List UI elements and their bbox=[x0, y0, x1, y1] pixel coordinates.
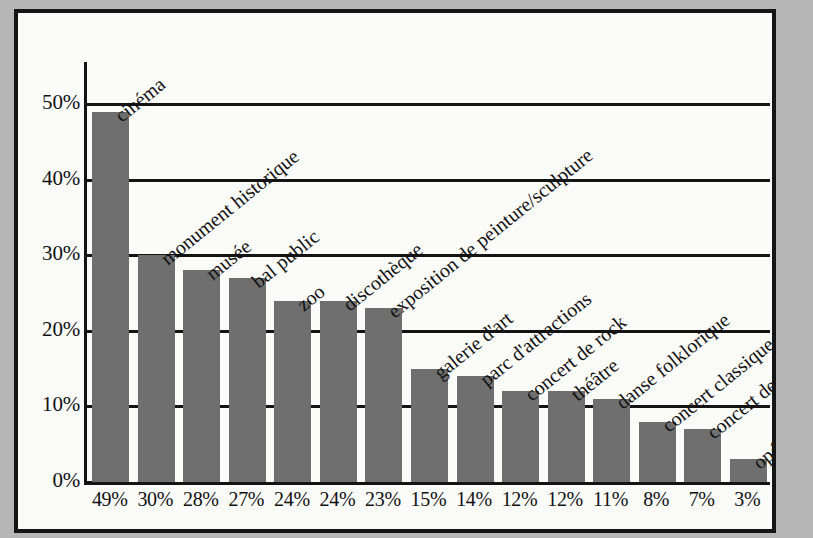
figure-plate: 0%10%20%30%40%50% cinémamonument histori… bbox=[0, 0, 813, 538]
bar-value-label: 30% bbox=[133, 488, 179, 511]
bar-value-label: 27% bbox=[224, 488, 270, 511]
bar-value-label: 11% bbox=[588, 488, 634, 511]
bar-value-label: 49% bbox=[87, 488, 133, 511]
category-label: exposition de peinture/sculpture bbox=[384, 144, 598, 323]
bar-value-label: 3% bbox=[724, 488, 770, 511]
category-labels: cinémamonument historiquemuséebal public… bbox=[18, 13, 772, 529]
bar-value-label: 28% bbox=[178, 488, 224, 511]
category-label: musée bbox=[202, 235, 256, 285]
bar-value-label: 15% bbox=[406, 488, 452, 511]
bar-value-label: 8% bbox=[633, 488, 679, 511]
bar-value-label: 23% bbox=[360, 488, 406, 511]
bar-value-label: 24% bbox=[315, 488, 361, 511]
category-label: opéra bbox=[748, 428, 772, 474]
category-label: cinéma bbox=[111, 72, 170, 126]
bar-value-label: 12% bbox=[542, 488, 588, 511]
bar-chart: 0%10%20%30%40%50% cinémamonument histori… bbox=[18, 13, 772, 529]
bar-value-label: 24% bbox=[269, 488, 315, 511]
bar-value-label: 7% bbox=[679, 488, 725, 511]
figure-frame: 0%10%20%30%40%50% cinémamonument histori… bbox=[14, 9, 776, 533]
bar-value-label: 14% bbox=[451, 488, 497, 511]
value-labels: 49%30%28%27%24%24%23%15%14%12%12%11%8%7%… bbox=[18, 488, 772, 528]
category-label: zoo bbox=[293, 279, 330, 315]
bar-value-label: 12% bbox=[497, 488, 543, 511]
